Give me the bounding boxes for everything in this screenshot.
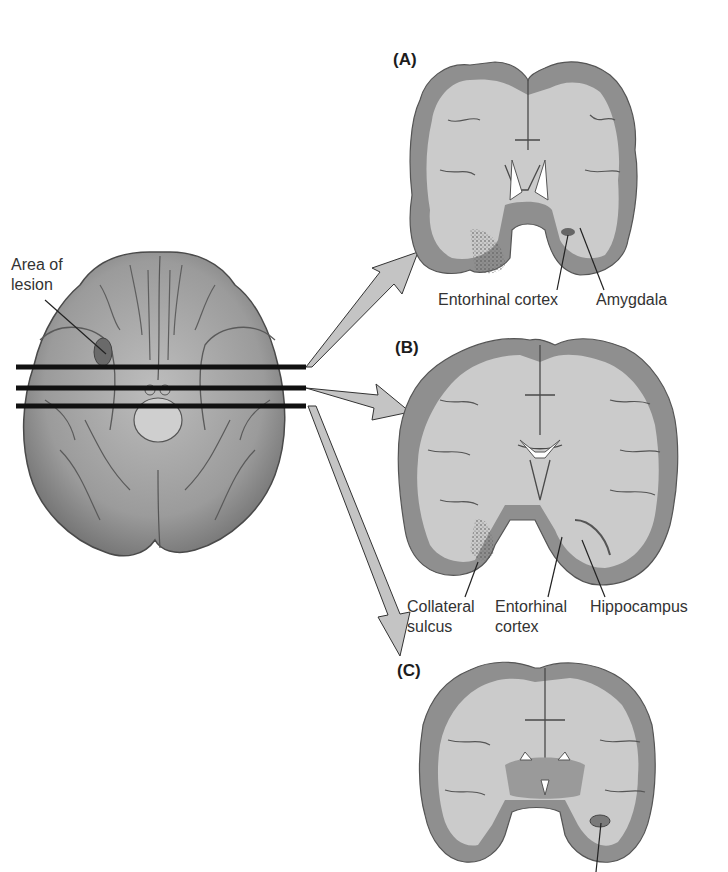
entorhinal-cortex-label-a: Entorhinal cortex <box>438 290 558 310</box>
hippocampus-label: Hippocampus <box>590 597 688 617</box>
collateral-sulcus-label: Collateral sulcus <box>407 597 475 637</box>
panel-c-label: (C) <box>397 661 421 681</box>
lesion-label-line1: Area of <box>11 255 63 275</box>
coronal-section-a <box>410 62 637 275</box>
entorhinal-cortex-label-b: Entorhinal cortex <box>495 597 567 637</box>
figure-canvas <box>0 0 728 872</box>
amygdala-label: Amygdala <box>596 290 667 310</box>
coronal-section-c <box>419 662 655 862</box>
lesion-label-line2: lesion <box>11 275 63 295</box>
panel-b-label: (B) <box>395 338 419 358</box>
panel-a-label: (A) <box>393 50 417 70</box>
coronal-section-b <box>398 339 677 585</box>
lesion-label: Area of lesion <box>11 255 63 295</box>
